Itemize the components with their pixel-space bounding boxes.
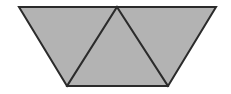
geometric-figure bbox=[0, 0, 231, 94]
figure-canvas bbox=[0, 0, 231, 94]
